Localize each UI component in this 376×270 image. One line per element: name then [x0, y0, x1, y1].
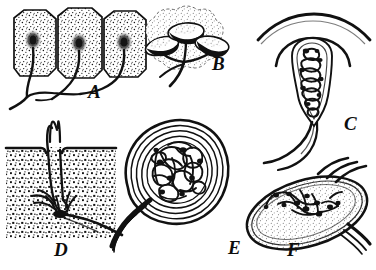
panel-d-artwork [4, 121, 122, 240]
panel-label-a: A [88, 82, 101, 101]
plate-artwork [0, 0, 376, 270]
panel-f-artwork [238, 158, 376, 263]
panel-c-artwork [258, 14, 370, 170]
panel-label-f: F [287, 240, 300, 259]
panel-label-b: B [212, 54, 225, 73]
panel-label-d: D [54, 240, 68, 259]
panel-e-artwork [112, 120, 228, 252]
panel-label-e: E [228, 238, 241, 257]
panel-label-c: C [344, 114, 357, 133]
panel-a-artwork [10, 4, 152, 109]
illustration-plate: A B C D E F [0, 0, 376, 270]
